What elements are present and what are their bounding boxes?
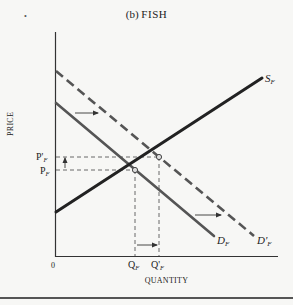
demand-curve-d-prime [56, 71, 254, 236]
y-axis-label: PRICE [6, 112, 15, 136]
bottom-rule [0, 297, 293, 299]
demand-label: DF [216, 234, 230, 248]
supply-label: SF [265, 72, 276, 86]
price-label: PF [40, 165, 51, 177]
origin-label: 0 [51, 261, 55, 270]
price-prime-label: P'F [36, 151, 48, 163]
chart-plot: SF DF D'F P'F PF QF Q'F 0 [0, 0, 293, 305]
x-axis-label: QUANTITY [0, 276, 293, 285]
supply-curve-s [56, 78, 262, 212]
equilibrium-point-e-prime [156, 154, 161, 159]
demand-prime-label: D'F [256, 234, 272, 248]
equilibrium-point-e [132, 167, 137, 172]
quantity-q-label: QF [128, 259, 140, 271]
quantity-q-prime-label: Q'F [151, 259, 165, 271]
